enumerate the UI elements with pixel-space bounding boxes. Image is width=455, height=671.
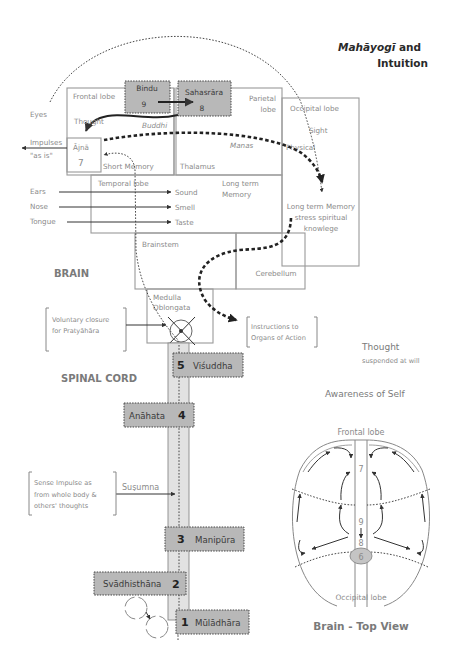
top-frontal-label: Frontal lobe bbox=[337, 428, 384, 437]
svg-text:9: 9 bbox=[358, 518, 363, 527]
ltm-spiritual-3: knowlege bbox=[304, 224, 339, 233]
nose-label: Nose bbox=[30, 202, 49, 211]
chakra-manipura: 3 Manipūra bbox=[165, 527, 244, 551]
awareness-note: Awareness of Self bbox=[325, 389, 405, 399]
susumna-label: Suṣumna bbox=[122, 483, 159, 492]
occipital-lobe-label: Occipital lobe bbox=[290, 104, 340, 113]
chakra-svadhisthana: Svādhisthāna 2 bbox=[94, 572, 186, 595]
impulses-label-2: "as is" bbox=[30, 151, 53, 160]
yoga-brain-diagram: Mahāyogī and Intuition Bindu 9 Sahasrāra… bbox=[0, 0, 455, 671]
parietal-label-1: Parietal bbox=[249, 94, 276, 103]
cerebellum-label: Cerebellum bbox=[255, 269, 296, 278]
brain-section-label: BRAIN bbox=[54, 268, 89, 279]
chakra-bindu-name: Bindu bbox=[136, 84, 158, 93]
svg-text:6: 6 bbox=[358, 553, 363, 562]
thought-label: Thought bbox=[73, 117, 104, 126]
instructions-bracket-left bbox=[247, 317, 250, 347]
sense-label-3: others' thoughts bbox=[34, 502, 89, 510]
buddhi-label: Buddhi bbox=[142, 121, 167, 130]
manas-label: Manas bbox=[230, 141, 254, 150]
svg-text:Anāhata: Anāhata bbox=[129, 411, 165, 421]
ajna-name: Ājnā bbox=[73, 143, 89, 152]
svg-text:8: 8 bbox=[358, 539, 363, 548]
suspended-note: suspended at will bbox=[362, 357, 420, 365]
frontal-lobe-label: Frontal lobe bbox=[73, 92, 116, 101]
chakra-sahasrara-name: Sahasrāra bbox=[185, 88, 223, 97]
impulses-label-1: Impulses bbox=[30, 138, 62, 147]
instructions-label-2: Organs of Action bbox=[251, 334, 306, 342]
chakra-muladhara: 1 Mūlādhāra bbox=[176, 610, 249, 634]
voluntary-label-2: for Pratyāhāra bbox=[52, 327, 99, 335]
medulla-label-2: Oblongata bbox=[153, 303, 190, 312]
instructions-label-1: Instructions to bbox=[251, 323, 298, 331]
sight-label: Sight bbox=[309, 126, 328, 135]
svg-text:Manipūra: Manipūra bbox=[195, 535, 235, 545]
title-line2: Intuition bbox=[377, 57, 428, 69]
long-term-label-2: Memory bbox=[222, 190, 252, 199]
top-view-caption: Brain - Top View bbox=[313, 620, 409, 632]
cerebellum-box bbox=[236, 233, 305, 289]
title-line1: Mahāyogī and bbox=[338, 41, 421, 53]
svg-text:2: 2 bbox=[172, 578, 180, 591]
taste-label: Taste bbox=[174, 218, 194, 227]
spinal-section-label: SPINAL CORD bbox=[61, 373, 137, 384]
eyes-label: Eyes bbox=[30, 110, 47, 119]
svg-text:Viśuddha: Viśuddha bbox=[193, 361, 233, 371]
sense-label-2: from whole body & bbox=[34, 491, 97, 499]
smell-label: Smell bbox=[175, 203, 195, 212]
voluntary-bracket-right bbox=[123, 308, 126, 351]
ears-label: Ears bbox=[30, 187, 46, 196]
svg-text:4: 4 bbox=[178, 409, 186, 422]
brain-top-view: Frontal lobe 6 7 9 8 Occipital lobe Brai… bbox=[292, 428, 430, 632]
sound-label: Sound bbox=[175, 188, 198, 197]
parietal-label-2: lobe bbox=[261, 105, 277, 114]
spinal-to-ajna-dashed bbox=[104, 153, 178, 640]
svg-text:7: 7 bbox=[358, 465, 363, 474]
chakra-visuddha: 5 Viśuddha bbox=[173, 353, 243, 377]
medulla-label-1: Medulla bbox=[153, 293, 181, 302]
temporal-lobe-label: Temporal lobe bbox=[97, 179, 149, 188]
svg-text:5: 5 bbox=[177, 359, 185, 372]
svg-text:Mūlādhāra: Mūlādhāra bbox=[195, 618, 240, 628]
top-occipital-label: Occipital lobe bbox=[335, 593, 387, 602]
chakra-sahasrara-number: 8 bbox=[200, 104, 205, 113]
long-term-label-1: Long term bbox=[222, 179, 259, 188]
sense-bracket-left bbox=[29, 472, 32, 515]
brainstem-label: Brainstem bbox=[142, 240, 179, 249]
svg-text:3: 3 bbox=[177, 533, 185, 546]
chakra-anahata: Anāhata 4 bbox=[124, 403, 194, 427]
thought-note: Thought bbox=[361, 342, 400, 352]
ltm-spiritual-1: Long term Memory bbox=[287, 202, 356, 211]
sense-bracket-right bbox=[113, 472, 116, 515]
sense-label-1: Sense Impulse as bbox=[34, 479, 92, 487]
chakra-bindu-number: 9 bbox=[142, 100, 147, 109]
ltm-spiritual-2: stress spiritual bbox=[295, 213, 348, 222]
svg-text:Svādhisthāna: Svādhisthāna bbox=[103, 579, 161, 589]
instructions-bracket-right bbox=[314, 317, 317, 347]
ajna-number: 7 bbox=[78, 158, 84, 168]
short-memory-label: Short Memory bbox=[103, 162, 155, 171]
occipital-box bbox=[282, 98, 359, 266]
svg-text:1: 1 bbox=[181, 616, 189, 629]
pratyahara-closure-symbol bbox=[168, 317, 195, 345]
voluntary-label-1: Voluntary closure bbox=[52, 316, 109, 324]
tongue-label: Tongue bbox=[29, 217, 56, 226]
kundalini-swirl-icon bbox=[125, 597, 168, 638]
thalamus-label: Thalamus bbox=[179, 162, 215, 171]
voluntary-bracket-left bbox=[46, 308, 49, 351]
chakra-sahasrara-box bbox=[178, 81, 231, 116]
